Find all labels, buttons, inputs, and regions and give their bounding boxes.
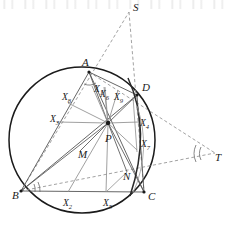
- label-X8: X8: [61, 92, 72, 104]
- label-point-B: B: [12, 189, 19, 201]
- label-point-C: C: [148, 190, 156, 202]
- ray-P-to-N: [108, 123, 127, 172]
- side-BC: [21, 191, 144, 192]
- label-point-N: N: [122, 170, 131, 182]
- label-point-A: A: [81, 56, 89, 68]
- vertex-dot-C: [142, 190, 145, 193]
- segment-P-to-X3: [57, 122, 108, 123]
- vertex-dot-B: [19, 189, 22, 192]
- label-point-M: M: [77, 148, 88, 160]
- label-X2: X2: [62, 198, 73, 210]
- vertex-dot-A: [87, 70, 90, 73]
- angle-at-T-inner: [200, 147, 201, 160]
- label-X3: X3: [49, 114, 60, 126]
- vertex-dot-P: [106, 121, 110, 125]
- label-point-D: D: [141, 81, 150, 93]
- label-X6: X6: [99, 89, 110, 101]
- label-point-T: T: [215, 151, 222, 163]
- line-B-to-T-dashed: [21, 153, 215, 191]
- label-X4: X4: [139, 118, 150, 130]
- label-point-S: S: [133, 1, 139, 13]
- segment-D-to-X7-vertical: [133, 97, 137, 152]
- diagonal-BD: [21, 95, 137, 191]
- label-X7: X7: [140, 139, 151, 151]
- segment-P-to-X4: [108, 122, 139, 123]
- label-X5: X5: [102, 198, 113, 210]
- ray-P-to-B: [21, 123, 108, 191]
- geometry-figure-root: A B C D S T P M N X1 X2 X3 X4 X5 X6 X7: [0, 0, 230, 234]
- geometry-figure-svg: A B C D S T P M N X1 X2 X3 X4 X5 X6 X7: [0, 0, 230, 234]
- angle-at-B-outer: [38, 182, 40, 192]
- segment-P-to-X2: [68, 123, 108, 192]
- line-B-to-S-dashed: [21, 12, 129, 191]
- label-point-P: P: [104, 132, 112, 144]
- vertex-dot-D: [135, 93, 138, 96]
- angle-at-T-outer: [194, 145, 196, 162]
